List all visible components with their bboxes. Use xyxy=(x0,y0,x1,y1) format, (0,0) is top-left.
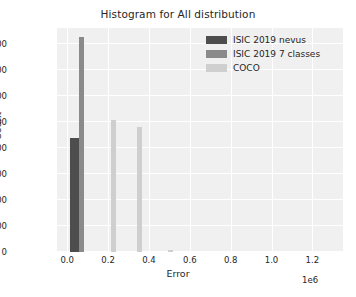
x-tick-label: 0.8 xyxy=(211,255,251,265)
legend-label: COCO xyxy=(233,63,260,73)
gridline-horizontal xyxy=(57,121,343,122)
gridline-vertical xyxy=(190,28,191,252)
gridline-vertical xyxy=(108,28,109,252)
chart-legend: ISIC 2019 nevusISIC 2019 7 classesCOCO xyxy=(203,31,323,77)
gridline-horizontal xyxy=(57,147,343,148)
y-tick-label: 1500 xyxy=(0,169,7,179)
y-tick-label: 3000 xyxy=(0,91,7,101)
gridline-horizontal xyxy=(57,251,343,252)
histogram-bar xyxy=(168,250,173,252)
legend-swatch xyxy=(206,64,227,72)
y-axis-label: Count xyxy=(0,112,3,140)
legend-item: ISIC 2019 7 classes xyxy=(206,47,320,60)
x-tick-label: 1.0 xyxy=(252,255,292,265)
gridline-horizontal xyxy=(57,173,343,174)
legend-item: COCO xyxy=(206,61,320,74)
histogram-bar xyxy=(79,37,84,252)
x-tick-label: 0.6 xyxy=(170,255,210,265)
gridline-horizontal xyxy=(57,199,343,200)
legend-label: ISIC 2019 nevus xyxy=(233,35,306,45)
y-tick-label: 500 xyxy=(0,221,7,231)
x-tick-label: 0.4 xyxy=(129,255,169,265)
legend-label: ISIC 2019 7 classes xyxy=(233,49,320,59)
y-tick-label: 4000 xyxy=(0,39,7,49)
y-tick-label: 3500 xyxy=(0,65,7,75)
chart-title: Histogram for All distribution xyxy=(0,8,356,20)
y-tick-label: 1000 xyxy=(0,195,7,205)
legend-item: ISIC 2019 nevus xyxy=(206,33,320,46)
y-tick-label: 0 xyxy=(0,247,7,257)
x-tick-label: 0.2 xyxy=(88,255,128,265)
legend-swatch xyxy=(206,36,227,44)
histogram-bar xyxy=(111,120,116,252)
gridline-vertical xyxy=(149,28,150,252)
x-tick-label: 0.0 xyxy=(47,255,87,265)
gridline-horizontal xyxy=(57,225,343,226)
gridline-vertical xyxy=(67,28,68,252)
x-axis-offset-exponent: 1e6 xyxy=(302,275,318,285)
y-tick-label: 2000 xyxy=(0,143,7,153)
histogram-bar xyxy=(70,138,80,252)
legend-swatch xyxy=(206,50,227,58)
histogram-bar xyxy=(137,127,142,252)
histogram-figure: Histogram for All distribution 050010001… xyxy=(0,0,356,297)
x-tick-label: 1.2 xyxy=(292,255,332,265)
gridline-horizontal xyxy=(57,95,343,96)
